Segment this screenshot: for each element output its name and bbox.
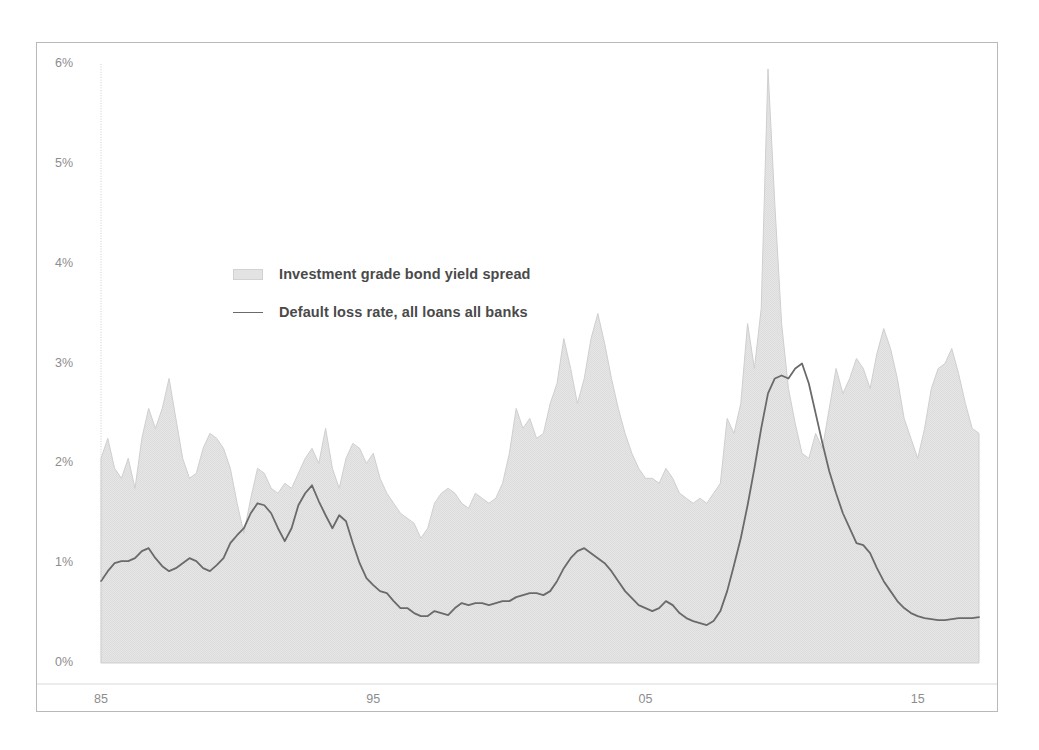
chart-frame: Investment grade bond yield spread Defau… <box>36 42 998 712</box>
chart-legend: Investment grade bond yield spread Defau… <box>233 255 653 331</box>
x-axis-tick-05: 05 <box>615 692 675 706</box>
legend-line-swatch-icon <box>233 312 279 313</box>
chart-plot-area <box>37 43 997 711</box>
y-axis-tick-2pct: 2% <box>55 455 73 469</box>
y-axis-tick-6pct: 6% <box>55 56 73 70</box>
x-axis-tick-85: 85 <box>71 692 131 706</box>
y-axis-tick-3pct: 3% <box>55 356 73 370</box>
y-axis-tick-5pct: 5% <box>55 156 73 170</box>
legend-label-area: Investment grade bond yield spread <box>279 266 531 282</box>
y-axis-tick-4pct: 4% <box>55 256 73 270</box>
x-axis-tick-15: 15 <box>888 692 948 706</box>
y-axis-tick-0pct: 0% <box>55 655 73 669</box>
legend-label-line: Default loss rate, all loans all banks <box>279 304 528 320</box>
y-axis-tick-1pct: 1% <box>55 555 73 569</box>
chart-figure: Investment grade bond yield spread Defau… <box>0 0 1039 750</box>
area-series-investment-grade-spread <box>101 69 979 663</box>
x-axis-tick-95: 95 <box>343 692 403 706</box>
legend-area-swatch-icon <box>233 269 279 280</box>
legend-item-line: Default loss rate, all loans all banks <box>233 293 653 331</box>
legend-item-area: Investment grade bond yield spread <box>233 255 653 293</box>
